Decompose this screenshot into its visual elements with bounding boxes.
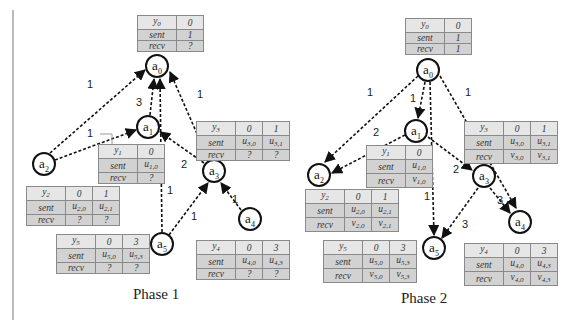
phase2-table-y2: y201 sentu2,0u2,1 recvv2,0v2,1	[305, 189, 399, 232]
phase2-edge-label-a0-a1: 1	[410, 92, 416, 104]
phase2-edge-label-a0-a5: 1	[424, 190, 430, 202]
phase2-node-a0: a0	[416, 58, 440, 82]
phase2-edge-label-a1-a2: 2	[373, 126, 379, 138]
phase2-table-y3: y301 sentu3,0u3,1 recvv3,0v3,1	[464, 121, 558, 164]
phase1-edge-label-a5-a0: 1	[167, 184, 173, 196]
phase1-table-y4: y403 sentu4,0u4,3 recv??	[196, 240, 290, 280]
edge-a0-a1	[418, 82, 425, 118]
phase1-node-a3: a3	[202, 159, 226, 183]
phase2-edge-label-a1-a3: 2	[453, 163, 459, 175]
phase2-caption: Phase 2	[401, 290, 447, 307]
phase2-table-y5: y503 sentu5,0u5,3 recvv5,0v5,3	[323, 240, 417, 283]
phase1-edge-label-a5-a3: 1	[191, 210, 197, 222]
phase2-edge-label-a3-a5: 3	[462, 218, 468, 230]
phase1-table-y2: y201 sentu2,0u2,1 recv??	[26, 186, 120, 226]
phase2-node-a2: a2	[307, 163, 331, 187]
phase1-node-a2: a2	[32, 152, 56, 176]
phase1-node-a5: a5	[150, 232, 174, 256]
phase2-edge-label-a0-a2: 1	[367, 86, 373, 98]
edge-a3-a5	[442, 188, 478, 238]
phase1-edge-label-a4-a3: 1	[232, 193, 238, 205]
phase2-table-y0: y00 sent1 recv1	[405, 18, 472, 55]
phase1-node-a0: a0	[145, 54, 169, 78]
phase2-table-y1: y10 sentu1,0 recvv1,0	[366, 145, 433, 188]
edge-a1-a0	[150, 79, 154, 115]
phase2-table-y4: y403 sentu4,0u4,3 recvv4,0v4,3	[464, 243, 558, 286]
phase2-node-a1: a1	[404, 119, 428, 143]
diagram-stage: a0 a1 a2 a3 a4 a5 1 1 3 1 1 2 1 1 y00 se…	[0, 0, 573, 323]
edge-a5-a3	[169, 183, 208, 235]
phase2-edge-label-a0-a4: 1	[465, 86, 471, 98]
phase1-table-y0: y00 sent1 recv?	[137, 15, 204, 52]
phase2-node-a3: a3	[472, 164, 496, 188]
phase1-table-y3: y301 sentu3,0u3,1 recv??	[196, 121, 290, 161]
phase1-edge-label-a3-a1: 2	[181, 158, 187, 170]
phase2-node-a4: a4	[508, 210, 532, 234]
phase1-table-y1: y10 sentu1,0 recv?	[98, 144, 165, 184]
phase1-node-a1: a1	[136, 115, 160, 139]
phase1-edge-label-a2-a0: 1	[87, 78, 93, 90]
phase1-node-a4: a4	[238, 207, 262, 231]
phase1-edge-label-a2-a1: 1	[87, 127, 93, 139]
edge-a2-a0	[50, 70, 145, 153]
phase2-edge-label-a3-a4: 3	[497, 194, 503, 206]
phase1-edge-label-a1-a0: 3	[136, 96, 142, 108]
phase1-edge-label-a3-a0: 1	[197, 88, 203, 100]
phase1-caption: Phase 1	[133, 286, 179, 303]
phase1-table-y5: y503 sentu5,0u5,3 recv??	[56, 234, 150, 274]
phase2-node-a5: a5	[422, 236, 446, 260]
